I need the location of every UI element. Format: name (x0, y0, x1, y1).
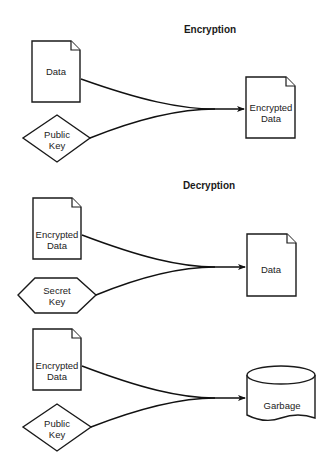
edge-encrypted-to-garbage (82, 366, 245, 398)
public-key-label: Public Key (44, 129, 70, 151)
data-label: Data (261, 264, 281, 275)
encrypted-data-label: Encrypted Data (36, 229, 79, 251)
decryption-heading: Decryption (183, 180, 235, 191)
encryption-heading: Encryption (184, 24, 236, 35)
edge-encrypted-to-data (82, 235, 245, 267)
data-label: Data (46, 66, 66, 77)
encrypted-data-label: Encrypted Data (250, 102, 293, 124)
edge-key-to-encrypted (90, 109, 215, 138)
public-key-label: Public Key (44, 418, 70, 440)
garbage-cylinder-icon (247, 366, 315, 420)
edge-public-to-garbage (91, 398, 215, 427)
secret-key-label: Secret Key (43, 285, 70, 307)
encrypted-data-label: Encrypted Data (36, 360, 79, 382)
edge-data-to-encrypted (81, 79, 244, 109)
edge-secret-to-data (96, 267, 215, 295)
garbage-label: Garbage (264, 400, 301, 411)
